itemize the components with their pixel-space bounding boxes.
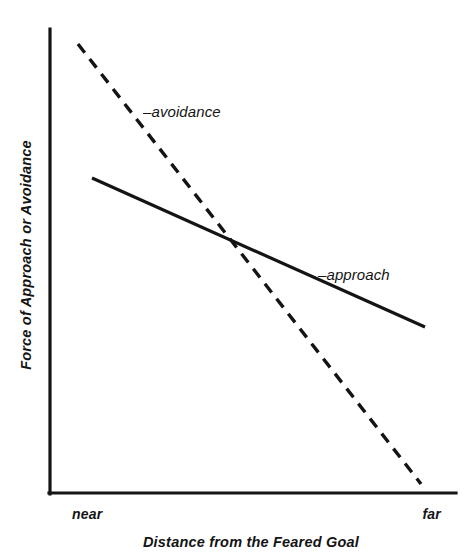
series-annotation-avoidance: –avoidance: [142, 103, 221, 120]
x-tick-label-near: near: [72, 506, 104, 522]
plot-background: [0, 0, 472, 556]
x-axis-title: Distance from the Feared Goal: [143, 534, 360, 550]
x-tick-label-far: far: [423, 506, 443, 522]
series-annotation-approach: –approach: [317, 266, 390, 283]
y-axis-title: Force of Approach or Avoidance: [18, 140, 34, 370]
chart-figure: –avoidance –approach near far Distance f…: [0, 0, 472, 556]
approach-avoidance-plot: –avoidance –approach near far Distance f…: [0, 0, 472, 556]
